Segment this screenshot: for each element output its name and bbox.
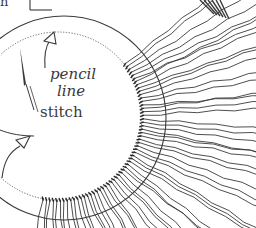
line-label: line: [57, 83, 85, 99]
hair-stitching-illustration: [0, 0, 256, 228]
stitch-arrow: [0, 130, 34, 178]
pencil-line-arrow: [44, 32, 56, 68]
top-label-fragment: n: [0, 0, 8, 10]
outer-circle: [0, 16, 166, 220]
pencil-label: pencil: [50, 66, 96, 82]
needle-icon: [20, 48, 38, 112]
stitch-label: stitch: [40, 104, 83, 120]
diagram-canvas: n pencil line stitch: [0, 0, 256, 228]
